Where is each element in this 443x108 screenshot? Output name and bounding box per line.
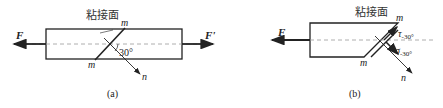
caption-b: (b) xyxy=(349,88,361,100)
section-bottom-a: m xyxy=(88,59,95,70)
force-label-left-a: F xyxy=(15,29,24,41)
bond-plane-b xyxy=(371,30,398,57)
figure-a: 粘接面 F F' m m n 30° (a) xyxy=(14,8,215,100)
section-top-a: m xyxy=(121,17,128,28)
bond-leader-a xyxy=(100,30,113,33)
diagram-canvas: 粘接面 F F' m m n 30° (a) 粘接面 F m m n τ-30°… xyxy=(0,0,443,108)
shear-stress-label-b: τ-30° xyxy=(398,28,414,41)
figure-b: 粘接面 F m m n τ-30° σ-30° (b) xyxy=(272,5,436,100)
section-bottom-b: m xyxy=(360,57,367,68)
normal-label-a: n xyxy=(142,71,147,82)
force-label-right-a: F' xyxy=(204,29,215,41)
caption-a: (a) xyxy=(107,88,118,100)
normal-label-b: n xyxy=(401,72,406,83)
section-top-b: m xyxy=(396,12,403,23)
normal-stress-label-b: σ-30° xyxy=(395,45,412,58)
bond-label-a: 粘接面 xyxy=(86,8,119,22)
bond-label-b: 粘接面 xyxy=(355,5,388,19)
angle-label-a: 30° xyxy=(119,47,133,58)
force-label-left-b: F xyxy=(277,26,286,38)
